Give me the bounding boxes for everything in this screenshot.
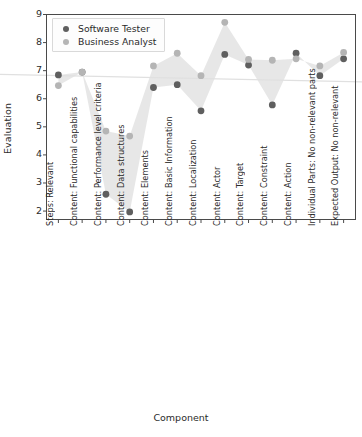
data-point	[174, 81, 181, 88]
data-point	[55, 82, 62, 89]
x-tick-label: Content: Elements	[141, 149, 149, 225]
data-point	[79, 69, 86, 76]
chart-legend: Software Tester Business Analyst	[52, 18, 165, 52]
x-tick-label: Content: Localization	[189, 139, 197, 225]
data-point	[103, 128, 110, 135]
legend-label-business-analyst: Business Analyst	[78, 36, 156, 47]
data-point	[55, 71, 62, 78]
data-point	[221, 19, 228, 26]
x-tick-label: Content: Performance level criteria	[94, 82, 102, 226]
data-point	[150, 84, 157, 91]
data-point	[150, 62, 157, 69]
data-point	[245, 56, 252, 63]
data-point	[269, 102, 276, 109]
data-point	[126, 133, 133, 140]
data-point	[126, 209, 133, 216]
legend-marker-software-tester	[63, 26, 69, 32]
x-tick-label: Individual Parts: No non-relevant parts	[307, 68, 315, 226]
legend-marker-business-analyst	[63, 39, 69, 45]
chart-root: Evaluation Component 23456789 Steps: Rel…	[0, 0, 362, 437]
data-point	[269, 57, 276, 64]
x-tick-label: Content: Constraint	[260, 145, 268, 225]
data-point	[103, 191, 110, 198]
data-point	[221, 51, 228, 58]
x-tick-label: Content: Data structures	[117, 124, 125, 226]
data-point	[293, 55, 300, 62]
x-tick-label: Steps: Relevant	[46, 161, 54, 225]
data-point	[340, 49, 347, 56]
x-tick-label: Content: Basic Information	[165, 116, 173, 226]
x-tick-label: Content: Action	[284, 162, 292, 226]
legend-item-software-tester[interactable]: Software Tester	[58, 22, 156, 35]
data-point	[198, 107, 205, 114]
data-point	[316, 62, 323, 69]
legend-item-business-analyst[interactable]: Business Analyst	[58, 35, 156, 48]
x-tick-label: Expected Output: No non-relevant	[331, 85, 339, 225]
data-point	[174, 50, 181, 57]
data-point	[340, 55, 347, 62]
x-tick-label: Content: Target	[236, 162, 244, 225]
data-point	[316, 72, 323, 79]
x-tick-label: Content: Functional capabilities	[70, 96, 78, 225]
legend-label-software-tester: Software Tester	[78, 23, 150, 34]
data-point	[198, 72, 205, 79]
x-tick-label: Content: Actor	[212, 166, 220, 225]
